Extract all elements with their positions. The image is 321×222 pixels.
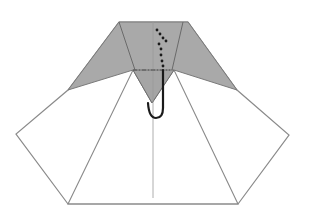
- arrow-dot: [161, 60, 164, 63]
- arrow-dot: [162, 65, 165, 68]
- arrow-dot: [158, 43, 161, 46]
- arrow-dot: [160, 54, 163, 57]
- arrow-dot: [159, 33, 162, 36]
- arrow-dot: [160, 48, 163, 51]
- arrow-dot: [165, 40, 168, 43]
- arrow-dot: [162, 37, 165, 40]
- arrow-dot: [156, 29, 159, 32]
- origami-diagram: [0, 0, 321, 222]
